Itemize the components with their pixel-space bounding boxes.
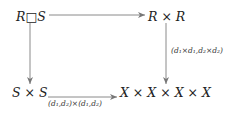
diagram-arrows (0, 0, 248, 114)
